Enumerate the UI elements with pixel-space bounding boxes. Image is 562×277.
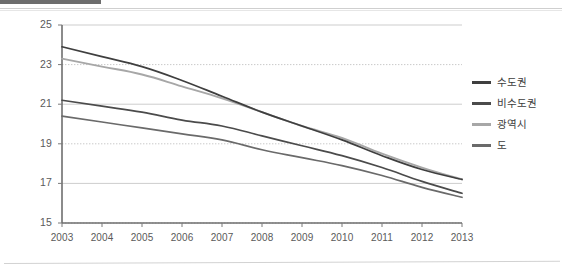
- x-axis-label-2004: 2004: [82, 232, 122, 243]
- x-axis-label-2013: 2013: [442, 232, 482, 243]
- y-axis-label-17: 17: [26, 176, 52, 188]
- legend-line-swatch-icon: [472, 144, 491, 147]
- gridlines: [62, 25, 462, 223]
- x-axis-label-2008: 2008: [242, 232, 282, 243]
- x-axis-label-2003: 2003: [42, 232, 82, 243]
- x-axis-label-2007: 2007: [202, 232, 242, 243]
- y-axis-label-25: 25: [26, 18, 52, 30]
- x-axis-label-2010: 2010: [322, 232, 362, 243]
- legend-item-2: 광역시: [472, 116, 558, 133]
- data-series-lines: [62, 47, 462, 197]
- y-axis-label-19: 19: [26, 137, 52, 149]
- y-axis-label-15: 15: [26, 216, 52, 228]
- series-line-1: [62, 100, 462, 193]
- x-axis-label-2006: 2006: [162, 232, 202, 243]
- x-axis-label-2011: 2011: [362, 232, 402, 243]
- legend-line-swatch-icon: [472, 123, 491, 126]
- y-axis-label-23: 23: [26, 58, 52, 70]
- legend-item-label: 비수도권: [497, 98, 537, 109]
- y-axis-label-21: 21: [26, 97, 52, 109]
- legend-item-label: 수도권: [497, 77, 527, 88]
- x-axis-label-2005: 2005: [122, 232, 162, 243]
- legend-item-label: 도: [497, 140, 507, 151]
- legend-item-0: 수도권: [472, 74, 558, 91]
- x-axis-label-2009: 2009: [282, 232, 322, 243]
- chart-legend: 수도권비수도권광역시도: [472, 74, 558, 158]
- series-line-2: [62, 59, 462, 180]
- legend-line-swatch-icon: [472, 102, 491, 105]
- series-line-3: [62, 116, 462, 197]
- legend-line-swatch-icon: [472, 81, 491, 84]
- legend-item-3: 도: [472, 137, 558, 154]
- x-axis-label-2012: 2012: [402, 232, 442, 243]
- line-chart-figure: 151719212325 200320042005200620072008200…: [0, 0, 562, 277]
- legend-item-label: 광역시: [497, 119, 527, 130]
- axis-lines: [62, 25, 462, 223]
- legend-item-1: 비수도권: [472, 95, 558, 112]
